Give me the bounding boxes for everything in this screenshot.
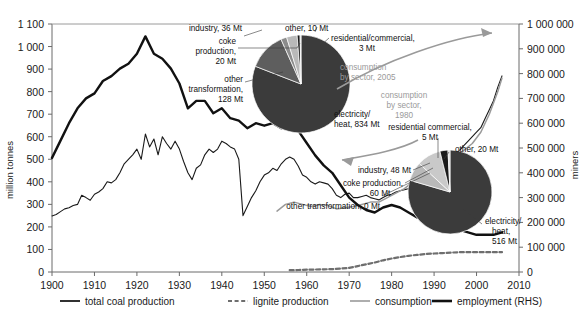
right-tick-label: 0 xyxy=(527,266,533,278)
right-tick-label: 900 000 xyxy=(527,43,565,55)
left-tick-label: 700 xyxy=(26,108,44,120)
legend-label-lignite-production: lignite production xyxy=(253,296,329,307)
label-residential-1980-l2: 5 Mt xyxy=(422,133,439,142)
right-tick-label: 700 000 xyxy=(527,92,565,104)
coal-production-chart: 01002003004005006007008009001 0001 100 0… xyxy=(0,0,588,324)
left-tick-label: 0 xyxy=(38,266,44,278)
pie-chart-1980 xyxy=(408,150,492,234)
label-othertrans-2005-l3: 128 Mt xyxy=(218,95,244,104)
label-electricity-1980-l3: 516 Mt xyxy=(492,237,518,246)
caption-1980-l1: consumption xyxy=(381,91,428,100)
caption-1980-l2: by sector, xyxy=(386,101,421,110)
label-residential-2005-l1: residential/commercial, xyxy=(331,34,415,43)
legend-label-employment-rhs-: employment (RHS) xyxy=(457,296,542,307)
left-tick-label: 400 xyxy=(26,176,44,188)
right-tick-label: 600 000 xyxy=(527,117,565,129)
left-tick-label: 500 xyxy=(26,153,44,165)
x-tick-label: 1980 xyxy=(380,279,404,291)
label-industry-1980: industry, 48 Mt xyxy=(358,166,412,175)
x-tick-label: 1940 xyxy=(210,279,234,291)
series-lignite-production xyxy=(290,252,502,270)
right-tick-label: 500 000 xyxy=(527,142,565,154)
right-tick-label: 800 000 xyxy=(527,68,565,80)
x-tick-label: 1970 xyxy=(338,279,362,291)
left-tick-label: 1 000 xyxy=(18,41,44,53)
right-tick-label: 100 000 xyxy=(527,241,565,253)
label-othertrans-2005-l2: transformation, xyxy=(188,85,243,94)
left-tick-label: 100 xyxy=(26,243,44,255)
label-residential-1980-l1: residential commercial, xyxy=(388,123,472,132)
label-electricity-1980-l1: electricity/ xyxy=(485,217,522,226)
label-residential-2005-l2: 3 Mt xyxy=(359,44,376,53)
x-tick-label: 1910 xyxy=(83,279,107,291)
left-tick-label: 200 xyxy=(26,221,44,233)
right-axis-title: miners xyxy=(569,151,580,180)
label-coke-2005-l3: 20 Mt xyxy=(216,57,237,66)
label-coke-1980-l1: coke production, xyxy=(343,179,403,188)
label-industry-2005: industry, 36 Mt xyxy=(189,24,243,33)
label-electricity-2005-l1: electricity/ xyxy=(334,110,371,119)
arrow-consumption-1980 xyxy=(342,140,418,166)
x-tick-label: 1960 xyxy=(295,279,319,291)
x-tick-label: 2010 xyxy=(507,279,531,291)
left-tick-label: 800 xyxy=(26,86,44,98)
x-axis: 1900191019201930194019501960197019801990… xyxy=(40,272,531,291)
left-axis: 01002003004005006007008009001 0001 100 xyxy=(18,18,52,278)
x-tick-label: 2000 xyxy=(465,279,489,291)
label-coke-2005-l2: production, xyxy=(195,47,236,56)
right-tick-label: 400 000 xyxy=(527,167,565,179)
legend-label-total-coal-production: total coal production xyxy=(85,296,175,307)
x-tick-label: 1990 xyxy=(422,279,446,291)
right-tick-label: 200 000 xyxy=(527,216,565,228)
left-axis-title: million tonnes xyxy=(4,141,15,199)
x-tick-label: 1930 xyxy=(168,279,192,291)
label-electricity-2005-l2: heat, 834 Mt xyxy=(334,120,380,129)
label-other-1980: other, 20 Mt xyxy=(455,145,499,154)
chart-root: 01002003004005006007008009001 0001 100 0… xyxy=(0,0,588,324)
label-othertrans-1980: other transformation, 0 Mt xyxy=(286,202,380,211)
label-othertrans-2005-l1: other xyxy=(224,75,243,84)
x-tick-label: 1920 xyxy=(125,279,149,291)
label-coke-1980-l2: 60 Mt xyxy=(370,189,391,198)
caption-2005-l2: by sector, 2005 xyxy=(340,73,396,82)
chart-legend: total coal productionlignite productionc… xyxy=(60,296,542,307)
label-coke-2005-l1: coke xyxy=(219,37,237,46)
left-tick-label: 900 xyxy=(26,63,44,75)
x-tick-label: 1900 xyxy=(40,279,64,291)
legend-label-consumption: consumption xyxy=(375,296,432,307)
left-tick-label: 600 xyxy=(26,131,44,143)
right-tick-label: 1 000 000 xyxy=(527,18,574,30)
label-other-2005: other, 10 Mt xyxy=(285,24,329,33)
right-axis: 0100 000200 000300 000400 000500 000600 … xyxy=(519,18,574,278)
caption-1980-l3: 1980 xyxy=(395,111,414,120)
left-tick-label: 1 100 xyxy=(18,18,44,30)
right-tick-label: 300 000 xyxy=(527,192,565,204)
left-tick-label: 300 xyxy=(26,198,44,210)
x-tick-label: 1950 xyxy=(253,279,277,291)
label-electricity-1980-l2: heat, xyxy=(492,227,510,236)
